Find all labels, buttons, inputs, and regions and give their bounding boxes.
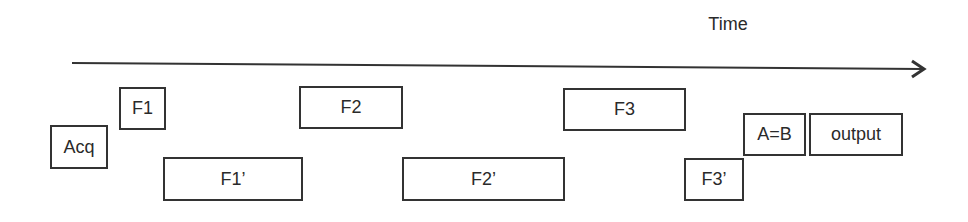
block-f2: F2 [299,86,403,129]
block-acq: Acq [50,125,108,169]
block-label: F2’ [471,169,496,190]
block-label: Acq [63,137,94,158]
block-label: F1 [132,98,153,119]
block-label: F3 [614,99,635,120]
block-f2-prime: F2’ [402,157,565,201]
block-f1-prime: F1’ [163,157,303,201]
block-f3: F3 [563,88,686,131]
block-label: F2 [340,97,361,118]
block-a-equals-b: A=B [743,113,806,156]
block-f3-prime: F3’ [684,158,744,201]
block-label: A=B [757,124,792,145]
block-f1: F1 [119,87,166,130]
block-label: output [831,124,881,145]
block-output: output [809,113,903,156]
block-label: F3’ [701,169,726,190]
block-label: F1’ [220,169,245,190]
